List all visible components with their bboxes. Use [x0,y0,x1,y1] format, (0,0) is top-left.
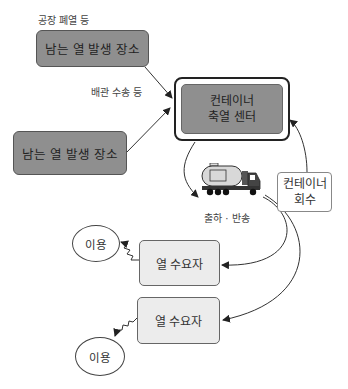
heat-source-label: 남는 열 발생 장소 [22,144,118,163]
center-label-line2: 축열 센터 [208,109,256,125]
heat-source-box-bottom: 남는 열 발생 장소 [13,131,127,175]
label-factory-waste-heat: 공장 폐열 등 [38,12,89,27]
container-storage-center: 컨테이너 축열 센터 [174,77,290,141]
consumer-label: 열 수요자 [156,255,204,272]
heat-container-diagram: 공장 폐열 등 남는 열 발생 장소 배관 수송 등 컨테이너 축열 센터 남는… [0,0,348,389]
label-pipe-transport: 배관 수송 등 [91,84,142,99]
return-label-line2: 회수 [294,192,316,208]
heat-source-label: 남는 열 발생 장소 [45,39,141,58]
consumer-label: 열 수요자 [155,312,203,329]
return-label-line1: 컨테이너 [283,176,327,192]
container-return-box: 컨테이너 회수 [277,172,332,212]
usage-oval-bottom: 이용 [75,337,125,376]
usage-label: 이용 [85,236,107,252]
container-storage-center-inner: 컨테이너 축열 센터 [181,84,283,134]
heat-source-box-top: 남는 열 발생 장소 [36,30,149,67]
tank-truck-icon [200,163,264,199]
heat-consumer-box-bottom: 열 수요자 [137,297,220,344]
usage-oval-top: 이용 [72,225,120,262]
usage-label: 이용 [89,349,111,365]
label-shipping-return: 출하 · 반송 [204,210,250,225]
center-label-line1: 컨테이너 [210,93,254,109]
heat-consumer-box-top: 열 수요자 [139,240,220,286]
